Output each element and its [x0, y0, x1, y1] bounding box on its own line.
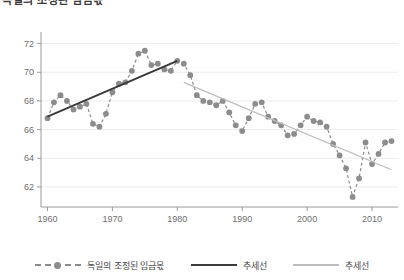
- y-tick-label: 70: [24, 67, 34, 77]
- legend-item: 독일의 조정된 임금몫: [35, 259, 164, 272]
- data-point-marker: [226, 110, 232, 116]
- data-point-marker: [239, 128, 245, 134]
- trend-line: [47, 61, 177, 117]
- data-point-marker: [356, 175, 362, 181]
- chart-page: 독일의 조정된 임금몫 6264666870721960197019801990…: [0, 0, 404, 280]
- x-tick-label: 2000: [297, 214, 317, 224]
- legend-swatch: [293, 260, 339, 270]
- data-point-marker: [337, 153, 343, 159]
- data-point-marker: [168, 68, 174, 74]
- legend-swatch: [191, 260, 237, 270]
- data-point-marker: [51, 99, 57, 105]
- legend-item: 추세선: [191, 259, 267, 272]
- y-tick-label: 72: [24, 39, 34, 49]
- legend-label: 추세선: [243, 259, 267, 272]
- data-point-marker: [233, 122, 239, 128]
- data-point-marker: [311, 118, 317, 124]
- legend-item: 추세선: [293, 259, 369, 272]
- wage-share-line-chart: 626466687072196019701980199020002010연도: [0, 10, 404, 225]
- trend-line: [184, 82, 392, 169]
- legend-label: 독일의 조정된 임금몫: [87, 259, 164, 272]
- data-point-marker: [194, 92, 200, 98]
- data-point-marker: [343, 165, 349, 171]
- data-point-marker: [142, 48, 148, 54]
- x-tick-label: 1970: [102, 214, 122, 224]
- chart-title-clipped: 독일의 조정된 임금몫: [0, 0, 404, 9]
- data-point-marker: [252, 101, 258, 107]
- data-point-marker: [298, 122, 304, 128]
- data-point-marker: [389, 138, 395, 144]
- x-tick-label: 1990: [232, 214, 252, 224]
- data-point-marker: [58, 92, 64, 98]
- y-tick-label: 64: [24, 153, 34, 163]
- x-tick-label: 1960: [37, 214, 57, 224]
- data-point-marker: [317, 120, 323, 126]
- data-point-marker: [181, 61, 187, 67]
- data-point-marker: [304, 114, 310, 120]
- legend-line: [293, 264, 339, 266]
- data-point-marker: [213, 102, 219, 108]
- data-point-marker: [187, 72, 193, 78]
- data-point-marker: [103, 111, 109, 117]
- data-point-marker: [148, 62, 154, 68]
- data-point-marker: [90, 121, 96, 127]
- data-point-marker: [363, 140, 369, 146]
- data-point-marker: [200, 98, 206, 104]
- data-point-marker: [207, 99, 213, 105]
- x-tick-label: 1980: [167, 214, 187, 224]
- data-point-marker: [259, 99, 265, 105]
- y-tick-label: 66: [24, 125, 34, 135]
- data-point-marker: [155, 61, 161, 67]
- data-point-marker: [382, 140, 388, 146]
- legend-marker-dot: [54, 262, 61, 269]
- y-tick-label: 68: [24, 96, 34, 106]
- page-title: 독일의 조정된 임금몫: [2, 0, 104, 7]
- data-point-marker: [129, 68, 135, 74]
- legend-line: [191, 264, 237, 266]
- data-point-marker: [71, 107, 77, 113]
- data-point-marker: [350, 194, 356, 200]
- data-point-marker: [285, 132, 291, 138]
- chart-legend: 독일의 조정된 임금몫추세선추세선: [0, 255, 404, 275]
- y-tick-label: 62: [24, 182, 34, 192]
- data-point-marker: [97, 124, 103, 130]
- x-tick-label: 2010: [362, 214, 382, 224]
- data-point-marker: [135, 51, 141, 57]
- data-point-marker: [64, 98, 70, 104]
- legend-label: 추세선: [345, 259, 369, 272]
- data-point-marker: [376, 151, 382, 157]
- data-point-marker: [291, 131, 297, 137]
- data-point-marker: [324, 124, 330, 130]
- plot-area: 626466687072196019701980199020002010연도: [0, 10, 404, 225]
- data-point-marker: [246, 115, 252, 121]
- legend-swatch: [35, 260, 81, 270]
